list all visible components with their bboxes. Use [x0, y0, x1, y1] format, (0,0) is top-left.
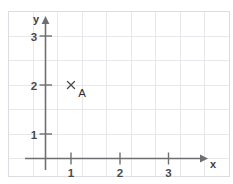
x-tick-label-3: 3 [165, 167, 171, 179]
y-tick-label-2: 2 [31, 80, 37, 92]
x-tick-label-2: 2 [117, 167, 123, 179]
x-axis-label: x [210, 158, 217, 170]
point-a-label: A [78, 87, 86, 99]
coordinate-plane-figure: 1 2 3 1 2 3 x y A [0, 0, 233, 184]
y-axis-arrow [42, 16, 50, 24]
y-axis-label: y [33, 13, 40, 25]
coordinate-plot: 1 2 3 1 2 3 x y A [0, 0, 233, 184]
y-tick-label-3: 3 [31, 31, 37, 43]
x-axis [25, 155, 208, 163]
y-tick-label-1: 1 [31, 129, 38, 141]
y-axis [42, 16, 50, 170]
x-tick-label-1: 1 [68, 167, 75, 179]
